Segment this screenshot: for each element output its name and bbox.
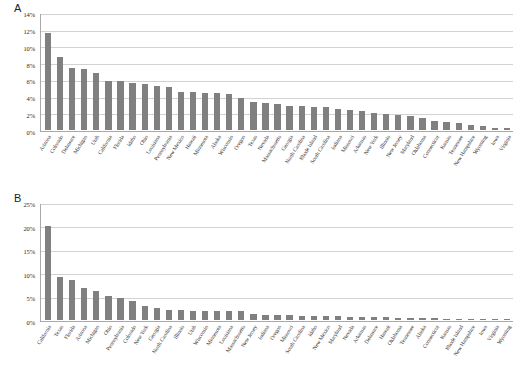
x-label-slot: Wyoming: [501, 323, 513, 379]
x-label-slot: Massachusetts: [235, 323, 247, 379]
bar: [419, 318, 425, 320]
panel-b-axes: [40, 204, 513, 322]
bar-slot: [429, 14, 441, 130]
x-tick-label: Ohio: [102, 324, 113, 336]
x-label-slot: Hawaii: [186, 133, 198, 189]
bar-slot: [477, 204, 489, 320]
x-label-slot: Wyoming: [477, 133, 489, 189]
bar: [105, 296, 111, 320]
y-tick-label: 10%: [23, 271, 35, 278]
bar: [81, 288, 87, 320]
x-label-slot: Michigan: [77, 133, 89, 189]
bar: [105, 81, 111, 130]
x-tick-label: Oregon: [232, 134, 246, 151]
bar-slot: [223, 204, 235, 320]
x-label-slot: Texas: [53, 323, 65, 379]
bar: [262, 315, 268, 320]
y-tick-label: 15%: [23, 248, 35, 255]
bar: [371, 317, 377, 320]
bar: [456, 319, 462, 320]
bar-slot: [247, 14, 259, 130]
bar: [347, 110, 353, 130]
panel-a-y-axis: 0%2%4%6%8%10%12%14%: [0, 14, 38, 132]
bar-slot: [139, 14, 151, 130]
x-label-slot: Pennsylvania: [114, 323, 126, 379]
bar-slot: [441, 14, 453, 130]
bar-slot: [235, 14, 247, 130]
bar-slot: [392, 14, 404, 130]
x-label-slot: Connecticut: [429, 133, 441, 189]
bar: [57, 57, 63, 130]
bar: [504, 319, 510, 320]
bar: [395, 115, 401, 130]
x-tick-label: Utah: [90, 134, 101, 146]
x-tick-label: Utah: [187, 324, 198, 336]
bar: [299, 316, 305, 320]
bar-slot: [489, 14, 501, 130]
bar-slot: [368, 14, 380, 130]
bar-slot: [151, 204, 163, 320]
x-label-slot: Arizona: [41, 133, 53, 189]
bar-slot: [344, 14, 356, 130]
bar: [468, 319, 474, 320]
x-label-slot: New York: [368, 133, 380, 189]
panel-a-x-axis-labels: ArizonaColoradoDelawareMichiganUtahCalif…: [41, 133, 513, 189]
bar-slot: [271, 204, 283, 320]
bar: [202, 311, 208, 320]
bar-slot: [127, 14, 139, 130]
bar-slot: [42, 204, 54, 320]
bar: [492, 128, 498, 131]
bar-slot: [296, 14, 308, 130]
bar: [142, 306, 148, 320]
bar: [250, 314, 256, 320]
bar: [154, 86, 160, 130]
bar-slot: [332, 14, 344, 130]
bar: [335, 316, 341, 320]
x-label-slot: Arkansas: [356, 323, 368, 379]
x-tick-label: Idaho: [125, 134, 137, 148]
x-label-slot: Idaho: [307, 323, 319, 379]
bar-slot: [78, 14, 90, 130]
panel-a-plot-area: [40, 14, 513, 132]
bar-slot: [356, 14, 368, 130]
x-label-slot: North Carolina: [162, 323, 174, 379]
x-label-slot: Minnesota: [211, 323, 223, 379]
x-tick-label: Iowa: [477, 324, 488, 336]
x-label-slot: Florida: [114, 133, 126, 189]
bar: [166, 87, 172, 130]
bar-slot: [380, 14, 392, 130]
x-label-slot: Tennessee: [404, 323, 416, 379]
bar-slot: [271, 14, 283, 130]
x-label-slot: California: [102, 133, 114, 189]
bar: [178, 310, 184, 320]
bar-slot: [66, 14, 78, 130]
x-label-slot: North Carolina: [295, 133, 307, 189]
x-label-slot: Colorado: [53, 133, 65, 189]
bar: [286, 315, 292, 320]
bar: [286, 106, 292, 130]
bar-slot: [223, 14, 235, 130]
y-tick-label: 25%: [23, 201, 35, 208]
panel-a: A 0%2%4%6%8%10%12%14% ArizonaColoradoDel…: [0, 0, 521, 190]
x-label-slot: Maryland: [332, 323, 344, 379]
bar-slot: [501, 204, 513, 320]
bar-slot: [54, 204, 66, 320]
x-label-slot: Texas: [247, 133, 259, 189]
bar: [443, 122, 449, 130]
bar: [274, 315, 280, 320]
y-tick-label: 4%: [27, 95, 35, 102]
bar: [323, 107, 329, 130]
bar: [214, 93, 220, 130]
x-label-slot: Iowa: [489, 133, 501, 189]
bar: [492, 319, 498, 320]
bar-slot: [259, 204, 271, 320]
x-label-slot: Virginia: [501, 133, 513, 189]
x-label-slot: Pennsylvania: [162, 133, 174, 189]
bar-slot: [416, 14, 428, 130]
bar: [190, 92, 196, 130]
x-label-slot: Utah: [89, 133, 101, 189]
bar-slot: [489, 204, 501, 320]
bar-slot: [199, 14, 211, 130]
y-tick-label: 10%: [23, 44, 35, 51]
bar: [311, 107, 317, 130]
